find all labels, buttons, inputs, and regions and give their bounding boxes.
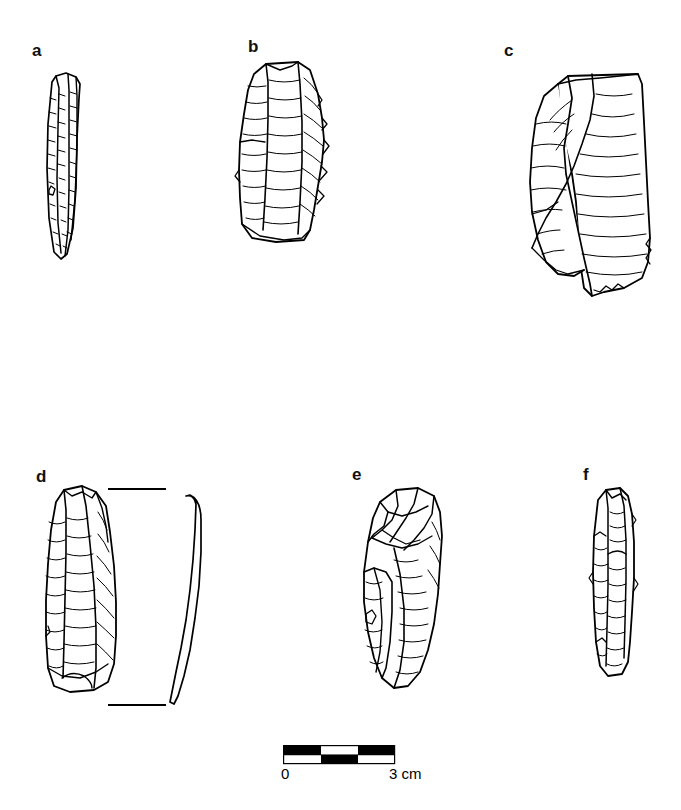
profile-view-d — [168, 490, 208, 710]
tick-lower-d — [108, 704, 166, 706]
scale-end-label: 3 cm — [389, 766, 422, 781]
artifact-b — [232, 58, 336, 256]
panel-label-a: a — [32, 42, 41, 59]
scale-start-label: 0 — [281, 766, 289, 781]
panel-label-c: c — [504, 42, 513, 59]
panel-label-b: b — [248, 38, 258, 55]
artifact-d — [36, 482, 146, 706]
panel-label-f: f — [583, 466, 589, 483]
lithic-artifact-plate: a — [0, 0, 681, 810]
artifact-f — [580, 482, 648, 688]
scale-bar — [283, 745, 396, 765]
artifact-a — [36, 68, 94, 264]
figure-caption — [30, 800, 650, 809]
artifact-e — [352, 482, 456, 700]
artifact-c — [506, 62, 660, 322]
panel-label-e: e — [352, 466, 361, 483]
tick-upper-d — [108, 488, 166, 490]
